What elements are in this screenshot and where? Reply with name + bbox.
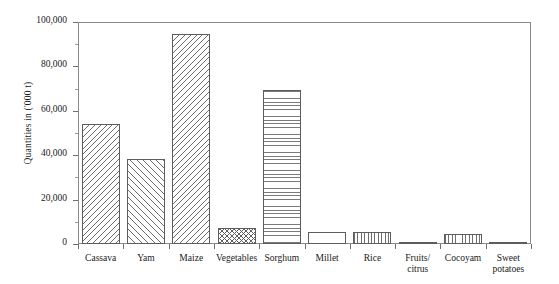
x-axis-tick-mark <box>259 244 260 249</box>
x-axis-tick-mark <box>123 244 124 249</box>
bar-slot <box>444 22 482 244</box>
x-axis-tick-label: Cocoyam <box>440 253 485 264</box>
x-axis-tick-label: Fruits/ citrus <box>395 253 440 275</box>
bars-group <box>78 22 531 244</box>
bar[interactable] <box>127 159 165 244</box>
x-axis-tick-mark <box>305 244 306 249</box>
y-axis-tick-label: 20,000 <box>41 193 67 203</box>
x-axis-tick-mark <box>395 244 396 249</box>
x-axis-tick-mark <box>350 244 351 249</box>
x-axis-tick-mark <box>78 244 79 249</box>
bar-slot <box>127 22 165 244</box>
bar[interactable] <box>82 124 120 244</box>
y-axis-tick-label: 40,000 <box>41 148 67 158</box>
x-axis-tick-label: Sorghum <box>259 253 304 264</box>
y-axis-title: Quantities in ('000 t) <box>23 33 33 213</box>
x-axis-tick-mark <box>169 244 170 249</box>
x-axis-tick-mark <box>531 244 532 249</box>
x-axis-tick-label: Rice <box>350 253 395 264</box>
y-axis-tick-label: 0 <box>62 237 67 247</box>
bar-slot <box>353 22 391 244</box>
bar-slot <box>489 22 527 244</box>
bar-slot <box>399 22 437 244</box>
x-axis: CassavaYamMaizeVegetablesSorghumMilletRi… <box>78 244 531 284</box>
x-axis-tick-label: Yam <box>123 253 168 264</box>
bar[interactable] <box>353 232 391 244</box>
bar-chart-figure: Quantities in ('000 t) 020,00040,00060,0… <box>0 0 559 284</box>
y-axis-tick-label: 60,000 <box>41 104 67 114</box>
y-axis-tick-label: 80,000 <box>41 59 67 69</box>
x-axis-tick-label: Vegetables <box>214 253 259 264</box>
x-axis-tick-mark <box>486 244 487 249</box>
bar[interactable] <box>218 228 256 244</box>
x-axis-tick-label: Cassava <box>78 253 123 264</box>
bar-slot <box>263 22 301 244</box>
bar-slot <box>218 22 256 244</box>
y-axis-tick-label: 100,000 <box>36 15 67 25</box>
x-axis-tick-mark <box>214 244 215 249</box>
x-axis-tick-label: Maize <box>169 253 214 264</box>
x-axis-tick-mark <box>440 244 441 249</box>
bar-slot <box>172 22 210 244</box>
bar-slot <box>82 22 120 244</box>
bar[interactable] <box>308 232 346 244</box>
bar[interactable] <box>263 90 301 244</box>
x-axis-tick-label: Millet <box>305 253 350 264</box>
x-axis-tick-label: Sweet potatoes <box>486 253 531 275</box>
bar[interactable] <box>444 234 482 244</box>
bar-slot <box>308 22 346 244</box>
bar[interactable] <box>172 34 210 244</box>
